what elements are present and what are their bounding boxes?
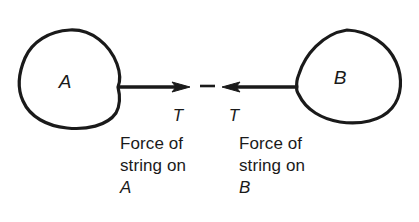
tension-label-left: T: [173, 106, 185, 125]
caption-left-line-2: string on: [120, 155, 186, 177]
body-b-label: B: [334, 67, 347, 88]
body-a-label: A: [58, 71, 72, 92]
caption-force-on-a: Force of string on A: [120, 133, 186, 199]
caption-right-line-1: Force of: [239, 133, 305, 155]
figure-canvas: A B T T: [0, 0, 419, 222]
caption-left-line-3: A: [120, 177, 186, 199]
tension-label-right: T: [229, 106, 241, 125]
physics-figure: A B T T Force of string on A Force of st…: [0, 0, 419, 222]
caption-right-line-3: B: [239, 177, 305, 199]
caption-right-line-2: string on: [239, 155, 305, 177]
caption-force-on-b: Force of string on B: [239, 133, 305, 199]
caption-left-line-1: Force of: [120, 133, 186, 155]
